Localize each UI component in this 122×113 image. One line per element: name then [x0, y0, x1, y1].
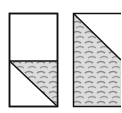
- shaded-trapezoid: [74, 14, 122, 107]
- quilt-diagram: [0, 0, 121, 113]
- left-block: [10, 14, 58, 107]
- right-block: [74, 14, 122, 107]
